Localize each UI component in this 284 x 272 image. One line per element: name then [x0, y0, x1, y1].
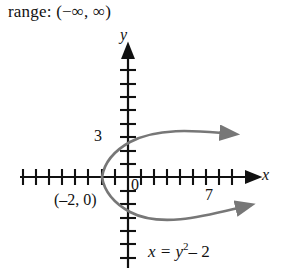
- coordinate-plane: [0, 0, 284, 272]
- equation-suffix: – 2: [189, 242, 210, 261]
- graph-figure: range: (−∞, ∞): [0, 0, 284, 272]
- x-tick-label-7: 7: [205, 186, 213, 204]
- y-tick-label-3: 3: [94, 127, 102, 145]
- y-axis: [120, 57, 136, 268]
- y-axis-label: y: [120, 26, 127, 44]
- equation-prefix: x = y: [148, 242, 183, 261]
- equation-label: x = y2– 2: [148, 240, 210, 262]
- x-axis-label: x: [262, 166, 269, 184]
- vertex-point-label: (–2, 0): [54, 191, 97, 209]
- parabola-lower-branch: [102, 177, 238, 220]
- origin-label: 0: [131, 176, 139, 194]
